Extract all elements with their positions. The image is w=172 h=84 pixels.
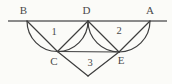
vertex-label-b: B: [20, 4, 27, 16]
region-label-2: 2: [116, 25, 121, 36]
vertex-label-c: C: [50, 55, 57, 67]
segment-ce: [58, 52, 120, 53]
region-label-1: 1: [51, 26, 56, 37]
figure-canvas: B D A C E 1 2 3: [0, 0, 172, 84]
vertex-label-e: E: [118, 54, 125, 66]
vertex-label-a: A: [146, 4, 154, 16]
geometry-figure: B D A C E 1 2 3: [0, 0, 172, 84]
vertex-label-d: D: [83, 4, 91, 16]
region-label-3: 3: [87, 57, 92, 68]
